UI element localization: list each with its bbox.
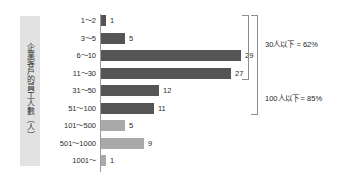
- bar-segment[interactable]: [101, 15, 106, 26]
- value-label: 1: [110, 152, 114, 169]
- bar-row: 6～10 29: [48, 47, 334, 64]
- category-label: 51～100: [48, 100, 96, 117]
- bar-row: 501～1000 9: [48, 135, 334, 152]
- bracket-100-or-fewer: [251, 15, 258, 115]
- category-label: 11～30: [48, 65, 96, 82]
- value-label: 11: [158, 100, 166, 117]
- bar-segment[interactable]: [101, 33, 125, 44]
- category-label: 501～1000: [48, 135, 96, 152]
- value-label: 12: [163, 82, 171, 99]
- category-label: 6～10: [48, 47, 96, 64]
- bar-segment[interactable]: [101, 50, 241, 61]
- annotation-100-or-fewer: 100人以下 = 85%: [265, 92, 322, 103]
- value-label: 9: [148, 135, 152, 152]
- category-label: 101～500: [48, 117, 96, 134]
- category-label: 1～2: [48, 12, 96, 29]
- bar-row: 101～500 5: [48, 117, 334, 134]
- bracket-30-or-fewer: [242, 15, 249, 80]
- value-label: 1: [110, 12, 114, 29]
- bar-segment[interactable]: [101, 138, 144, 149]
- value-label: 5: [129, 117, 133, 134]
- bar-segment[interactable]: [101, 103, 154, 114]
- bar-row: 1～2 1: [48, 12, 334, 29]
- value-label: 5: [129, 30, 133, 47]
- category-label: 1001～: [48, 152, 96, 169]
- annotation-30-or-fewer: 30人以下 = 62%: [265, 38, 318, 49]
- category-label: 3～5: [48, 30, 96, 47]
- bar-segment[interactable]: [101, 120, 125, 131]
- bar-segment[interactable]: [101, 155, 106, 166]
- bar-chart: 企業客戶的員工人數（人） 1～2 1 3～5 5 6～10 29 11～30 2…: [0, 0, 339, 185]
- bar-row: 11～30 27: [48, 65, 334, 82]
- bar-segment[interactable]: [101, 68, 231, 79]
- y-axis-title-box: 企業客戶的員工人數（人）: [20, 16, 40, 166]
- bar-row: 1001～ 1: [48, 152, 334, 169]
- y-axis-title: 企業客戶的員工人數（人）: [26, 43, 35, 139]
- category-label: 31～50: [48, 82, 96, 99]
- bar-segment[interactable]: [101, 85, 159, 96]
- plot-area: 1～2 1 3～5 5 6～10 29 11～30 27 31～50 12: [48, 12, 334, 174]
